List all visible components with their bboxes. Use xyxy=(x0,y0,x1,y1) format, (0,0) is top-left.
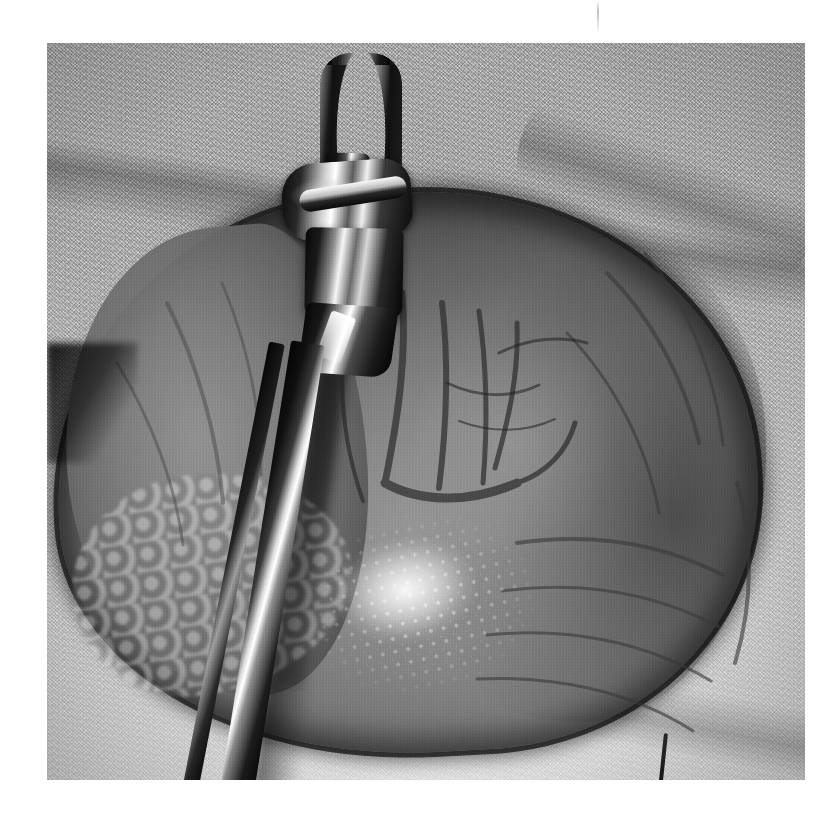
vertical-scan-artifact-line xyxy=(597,0,599,33)
page-canvas xyxy=(0,0,838,824)
intraoperative-photograph xyxy=(47,43,805,780)
photo-vignette xyxy=(47,43,805,780)
